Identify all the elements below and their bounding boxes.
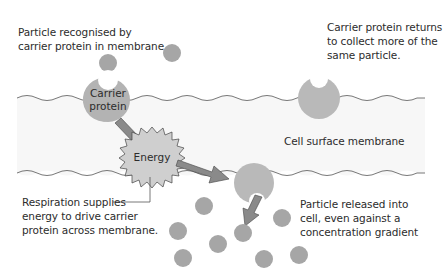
label-particle-recognised: Particle recognised by carrier protein i… [18,25,164,53]
particle [163,44,181,62]
particle [255,250,273,268]
particle [290,246,308,264]
label-cell-surface-membrane: Cell surface membrane [284,134,404,148]
particle [174,249,192,267]
carrier-protein-diagram: Particle recognised by carrier protein i… [0,0,443,278]
particle [234,224,252,242]
particle [195,197,213,215]
label-carrier-returns: Carrier protein returns to collect more … [327,20,442,62]
carrier-protein-empty [298,70,340,119]
label-carrier-protein: Carrier protein [86,87,130,113]
particle [169,222,187,240]
particle [273,209,291,227]
label-energy: Energy [128,151,176,164]
label-particle-released: Particle released into cell, even agains… [300,197,418,239]
particle [209,235,227,253]
particle [99,54,117,72]
label-respiration: Respiration supplies energy to drive car… [22,195,158,237]
